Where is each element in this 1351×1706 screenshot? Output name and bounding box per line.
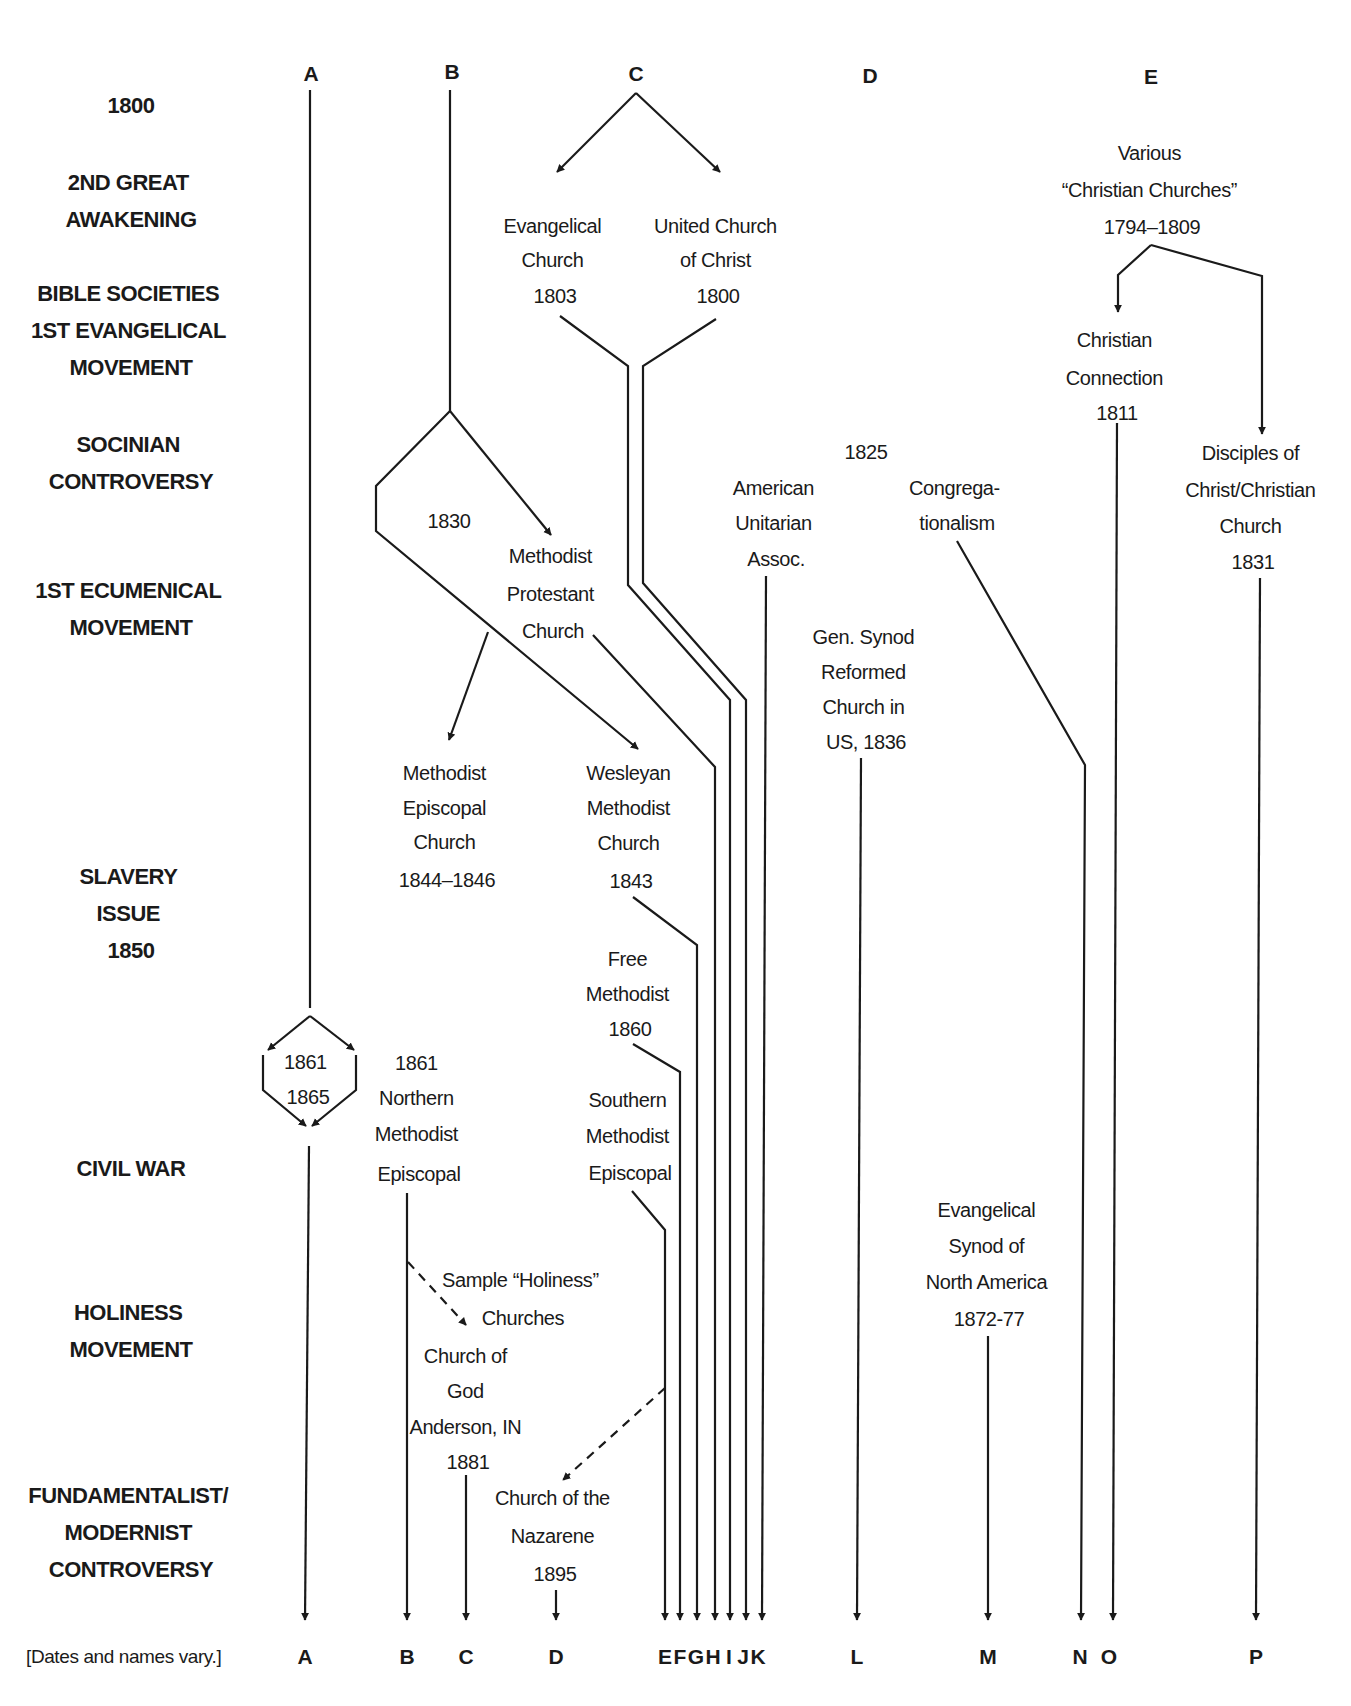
bottom-col-n: N xyxy=(1072,1645,1087,1668)
line-disciples-to-p xyxy=(1256,578,1260,1620)
line-b-left-loop xyxy=(376,411,638,749)
bottom-column-labels: [Dates and names vary.] A B C D E F G H … xyxy=(26,1645,1263,1668)
node-civil-war-years: 1861 1865 xyxy=(284,1051,332,1108)
node-church-of-god-anderson: Church of God Anderson, IN 1881 xyxy=(409,1345,526,1473)
node-southern-methodist-episcopal: Southern Methodist Episcopal xyxy=(586,1089,674,1184)
node-gen-synod-reformed: Gen. Synod Reformed Church in US, 1836 xyxy=(813,626,920,753)
bottom-col-g: G xyxy=(688,1645,704,1668)
era-holiness-movement: HOLINESS MOVEMENT xyxy=(69,1300,193,1362)
era-2nd-great-awakening: 2ND GREAT AWAKENING xyxy=(65,170,196,232)
line-a-bottom xyxy=(305,1146,309,1620)
era-labels: 1800 2ND GREAT AWAKENING BIBLE SOCIETIES… xyxy=(28,93,233,1582)
era-civil-war: CIVIL WAR xyxy=(77,1156,186,1181)
top-col-d: D xyxy=(862,64,877,87)
era-1800: 1800 xyxy=(108,93,155,118)
line-b-to-methodist-episcopal xyxy=(449,632,488,740)
bottom-col-e: E xyxy=(658,1645,672,1668)
node-wesleyan-methodist-church: Wesleyan Methodist Church 1843 xyxy=(586,762,675,892)
line-christian-connection-to-o xyxy=(1113,423,1117,1620)
line-a-split-left xyxy=(268,1016,310,1050)
bottom-col-k: K xyxy=(750,1645,765,1668)
bottom-col-f: F xyxy=(674,1645,687,1668)
bottom-col-h: H xyxy=(705,1645,720,1668)
line-gen-synod-to-l xyxy=(857,758,861,1620)
era-socinian-controversy: SOCINIAN CONTROVERSY xyxy=(49,432,214,494)
top-col-a: A xyxy=(303,62,318,85)
bottom-col-m: M xyxy=(979,1645,997,1668)
top-col-c: C xyxy=(628,62,643,85)
footnote: [Dates and names vary.] xyxy=(26,1646,221,1667)
line-congregationalism-to-n xyxy=(957,541,1085,1620)
bottom-col-j: J xyxy=(737,1645,749,1668)
node-labels: Evangelical Church 1803 United Church of… xyxy=(284,142,1321,1585)
line-e-to-christian-connection xyxy=(1118,245,1151,312)
node-year-1830: 1830 xyxy=(428,510,471,532)
line-holiness-to-nazarene xyxy=(563,1388,665,1480)
line-unitarian-to-j xyxy=(762,576,766,1620)
node-christian-connection: Christian Connection 1811 xyxy=(1066,329,1168,424)
top-col-b: B xyxy=(444,60,459,83)
bottom-col-d: D xyxy=(548,1645,563,1668)
bottom-col-o: O xyxy=(1101,1645,1117,1668)
bottom-col-c: C xyxy=(458,1645,473,1668)
node-american-unitarian-assoc: American Unitarian Assoc. xyxy=(733,477,819,570)
node-evangelical-church: Evangelical Church 1803 xyxy=(503,215,606,307)
bottom-col-i: I xyxy=(726,1645,732,1668)
node-congregationalism: Congrega- tionalism xyxy=(909,477,1005,534)
node-methodist-protestant-church: Methodist Protestant Church xyxy=(507,545,599,642)
bottom-col-l: L xyxy=(851,1645,864,1668)
line-c-to-ucc xyxy=(636,93,720,172)
era-bible-societies: BIBLE SOCIETIES 1ST EVANGELICAL MOVEMENT xyxy=(31,281,231,380)
line-c-to-evangelical xyxy=(557,93,636,172)
bottom-col-a: A xyxy=(297,1645,312,1668)
top-column-labels: A B C D E xyxy=(303,60,1158,88)
node-evangelical-synod-na: Evangelical Synod of North America 1872-… xyxy=(926,1199,1053,1330)
node-free-methodist: Free Methodist 1860 xyxy=(586,948,674,1040)
era-fundamentalist-modernist: FUNDAMENTALIST/ MODERNIST CONTROVERSY xyxy=(28,1483,233,1582)
node-various-christian-churches: Various “Christian Churches” 1794–1809 xyxy=(1062,142,1243,238)
node-united-church-of-christ: United Church of Christ 1800 xyxy=(654,215,782,307)
era-slavery-issue: SLAVERY ISSUE 1850 xyxy=(79,864,182,963)
node-year-1825: 1825 xyxy=(845,441,888,463)
top-col-e: E xyxy=(1144,65,1158,88)
era-1st-ecumenical-movement: 1ST ECUMENICAL MOVEMENT xyxy=(35,578,226,640)
denomination-timeline-diagram: A B C D E 1800 2ND GREAT AWAKENING BIBLE… xyxy=(0,0,1351,1706)
line-e-to-disciples xyxy=(1151,245,1262,434)
line-southern-methodist-to-e xyxy=(632,1191,665,1620)
bottom-col-p: P xyxy=(1249,1645,1263,1668)
line-a-split-right xyxy=(310,1016,354,1050)
connector-lines xyxy=(263,90,1262,1620)
node-northern-methodist-episcopal: 1861 Northern Methodist Episcopal xyxy=(375,1052,463,1185)
node-methodist-episcopal-church: Methodist Episcopal Church 1844–1846 xyxy=(399,762,496,891)
node-disciples-of-christ: Disciples of Christ/Christian Church 183… xyxy=(1185,442,1320,573)
node-church-of-the-nazarene: Church of the Nazarene 1895 xyxy=(495,1487,615,1585)
node-sample-holiness-churches: Sample “Holiness” Churches xyxy=(442,1269,604,1329)
bottom-col-b: B xyxy=(399,1645,414,1668)
